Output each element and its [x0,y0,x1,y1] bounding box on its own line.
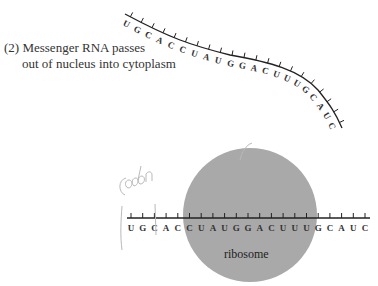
svg-text:A: A [250,62,259,73]
svg-text:U: U [303,223,310,233]
svg-text:U: U [280,223,287,233]
svg-text:C: C [362,223,369,233]
svg-text:U: U [198,223,205,233]
svg-text:C: C [175,223,182,233]
svg-text:G: G [244,223,251,233]
svg-text:A: A [338,223,345,233]
ribosome-label: ribosome [224,247,269,262]
curved-mrna-bases: UGCACCUAUGGACUUUGCAUC [121,18,338,131]
svg-text:U: U [190,48,200,60]
svg-text:G: G [233,223,240,233]
svg-text:U: U [321,111,333,122]
svg-text:U: U [272,68,282,80]
svg-text:C: C [186,223,193,233]
svg-text:C: C [327,223,334,233]
step-caption: (2) Messenger RNA passes out of nucleus … [4,40,176,72]
svg-text:U: U [221,223,228,233]
svg-text:G: G [300,84,312,96]
svg-text:G: G [226,58,235,69]
svg-text:A: A [315,101,327,113]
svg-text:C: C [178,44,187,56]
svg-text:A: A [210,223,217,233]
svg-text:A: A [202,51,211,63]
straight-mrna-ticks [131,213,365,218]
mrna-translation-diagram: UGCACCUAUGGACUUUGCAUC UGCACCUAUGGACUUUGC… [0,0,378,286]
svg-text:A: A [256,223,263,233]
svg-text:U: U [121,18,132,30]
straight-mrna-bases: UGCACCUAUGGACUUUGCAUC [128,223,369,233]
svg-text:A: A [163,223,170,233]
caption-line-1: (2) Messenger RNA passes [4,40,145,55]
caption-line-2: out of nucleus into cytoplasm [4,56,176,72]
svg-text:C: C [307,91,319,102]
svg-text:C: C [151,223,158,233]
svg-text:C: C [268,223,275,233]
svg-text:U: U [292,77,303,89]
svg-text:C: C [326,121,338,131]
svg-text:U: U [292,223,299,233]
svg-text:G: G [132,24,143,36]
svg-text:C: C [261,65,270,76]
svg-text:G: G [315,223,322,233]
svg-text:U: U [282,72,292,84]
svg-text:G: G [139,223,146,233]
svg-text:U: U [128,223,135,233]
svg-text:U: U [214,55,223,66]
svg-text:G: G [238,60,247,71]
svg-text:U: U [350,223,357,233]
